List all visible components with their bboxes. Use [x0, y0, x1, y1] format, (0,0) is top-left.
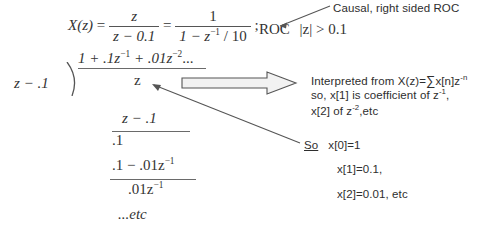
fraction-2-den-main: 1 − z — [179, 28, 210, 44]
fraction-2-denominator: 1 − z−1 / 10 — [175, 26, 251, 45]
roc-condition: |z| > 0.1 — [300, 21, 347, 37]
division-step-0-expr: z − .1 — [122, 110, 157, 126]
equation-semicolon: ; — [254, 17, 258, 33]
dividend-pointer-arrow — [152, 84, 300, 143]
result-x1: x[1]=0.1, — [337, 163, 382, 175]
result-x0: x[0]=1 — [328, 139, 360, 151]
fraction-2-den-exponent: −1 — [210, 27, 220, 37]
interpretation-line-1: Interpreted from X(z)=∑x[n]z-n — [311, 73, 467, 88]
quotient-term-1: + .01z−2 — [130, 50, 182, 66]
summation-sigma: ∑ — [426, 73, 435, 88]
fraction-1-denominator: z − 0.1 — [109, 26, 159, 45]
quotient-term-0: 1 + .1z−1 — [78, 50, 130, 66]
division-step-2-exp: −1 — [165, 156, 175, 166]
block-arrow-right — [182, 72, 296, 94]
conclusion-line: Sox[0]=1 — [304, 139, 361, 151]
division-step-0: z − .1 — [122, 110, 157, 127]
division-step-4: ...etc — [118, 206, 147, 223]
division-step-3-exp: −1 — [153, 180, 163, 190]
long-division-vinculum — [78, 68, 206, 69]
transform-lhs: X(z) — [68, 17, 93, 33]
division-step-2-expr: .1 − .01z — [112, 157, 165, 173]
interpretation-line-2: so, x[1] is coefficient of z-1, — [311, 89, 449, 101]
fraction-1-numerator: z — [109, 8, 159, 26]
equals-2: = — [163, 17, 171, 33]
result-x2: x[2]=0.01, etc — [337, 188, 408, 200]
fraction-2-den-tail: / 10 — [220, 28, 247, 44]
quotient-term-2: ... — [182, 50, 193, 66]
division-step-1-expr: .1 — [112, 132, 123, 148]
figure-canvas: X(z) = z z − 0.1 = 1 1 − z−1 / 10 ; ROC … — [0, 0, 497, 234]
main-equation: X(z) = z z − 0.1 = 1 1 − z−1 / 10 ; — [68, 8, 259, 45]
long-division-dividend: z — [134, 72, 141, 89]
fraction-2: 1 1 − z−1 / 10 — [175, 8, 251, 45]
long-division-quotient: 1 + .1z−1 + .01z−2... — [78, 50, 194, 67]
fraction-1: z z − 0.1 — [109, 8, 159, 45]
division-step-3-expr: .01z — [128, 181, 153, 197]
division-step-0-rule — [112, 131, 190, 132]
roc-label: ROC — [259, 21, 290, 37]
long-division-divisor: z − .1 — [14, 75, 49, 92]
divisor-text: z − .1 — [14, 75, 49, 91]
equals-1: = — [97, 17, 105, 33]
division-step-1: .1 — [112, 132, 123, 149]
roc-callout-text: Causal, right sided ROC — [333, 2, 459, 14]
so-label: So — [304, 139, 318, 151]
roc-expression: ROC |z| > 0.1 — [259, 21, 347, 38]
interpretation-line-3: x[2] of z-2,etc — [311, 105, 378, 117]
fraction-2-numerator: 1 — [175, 8, 251, 26]
division-step-2: .1 − .01z−1 — [112, 157, 175, 174]
division-step-3: .01z−1 — [128, 181, 163, 198]
